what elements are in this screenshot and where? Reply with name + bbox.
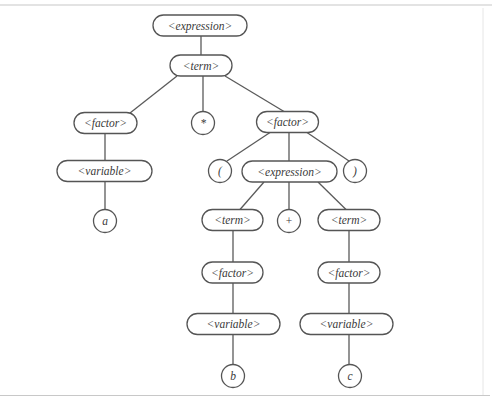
node-factor_b: <factor> bbox=[202, 262, 263, 283]
node-label: <factor> bbox=[84, 117, 127, 130]
node-label: <term> bbox=[214, 214, 251, 226]
node-factor_right: <factor> bbox=[257, 112, 319, 133]
node-label: <variable> bbox=[78, 165, 132, 177]
node-label: <variable> bbox=[320, 318, 374, 330]
node-a: a bbox=[94, 210, 117, 233]
edge-factor_right-to-rparen bbox=[307, 133, 349, 162]
node-expression_root: <expression> bbox=[153, 15, 247, 36]
node-label: <term> bbox=[331, 214, 368, 226]
node-label: <term> bbox=[183, 60, 220, 72]
parse-tree-diagram: <expression><term><factor>*<factor><vari… bbox=[0, 0, 499, 409]
node-label: <variable> bbox=[207, 318, 261, 330]
node-label: + bbox=[285, 215, 293, 227]
node-rparen: ) bbox=[344, 160, 367, 183]
node-term_b: <term> bbox=[202, 210, 263, 231]
node-term_root: <term> bbox=[170, 55, 232, 76]
node-label: * bbox=[200, 117, 206, 129]
edge-expression_inner-to-term_c bbox=[318, 182, 346, 210]
node-times: * bbox=[192, 112, 215, 135]
node-label: b bbox=[230, 370, 236, 382]
node-variable_a: <variable> bbox=[57, 161, 152, 182]
node-label: a bbox=[102, 215, 108, 227]
tree-nodes: <expression><term><factor>*<factor><vari… bbox=[57, 15, 393, 388]
node-factor_left: <factor> bbox=[74, 113, 137, 134]
node-term_c: <term> bbox=[318, 210, 380, 231]
edge-term_root-to-factor_left bbox=[130, 76, 177, 113]
node-label: <factor> bbox=[266, 116, 309, 129]
edge-expression_inner-to-term_b bbox=[240, 182, 264, 210]
edge-factor_right-to-lparen bbox=[227, 133, 270, 162]
node-factor_c: <factor> bbox=[318, 262, 380, 283]
node-expression_inner: <expression> bbox=[242, 161, 337, 182]
node-lparen: ( bbox=[209, 160, 232, 183]
node-label: c bbox=[347, 370, 352, 382]
node-variable_c: <variable> bbox=[300, 314, 393, 335]
node-variable_b: <variable> bbox=[187, 314, 280, 335]
node-label: <factor> bbox=[328, 267, 371, 280]
edge-term_root-to-factor_right bbox=[225, 76, 284, 112]
node-b: b bbox=[222, 365, 245, 388]
node-label: <factor> bbox=[211, 267, 254, 280]
node-label: <expression> bbox=[168, 20, 232, 33]
node-label: ) bbox=[352, 165, 357, 178]
node-c: c bbox=[339, 365, 362, 388]
node-label: <expression> bbox=[257, 166, 321, 179]
node-plus: + bbox=[278, 210, 301, 233]
